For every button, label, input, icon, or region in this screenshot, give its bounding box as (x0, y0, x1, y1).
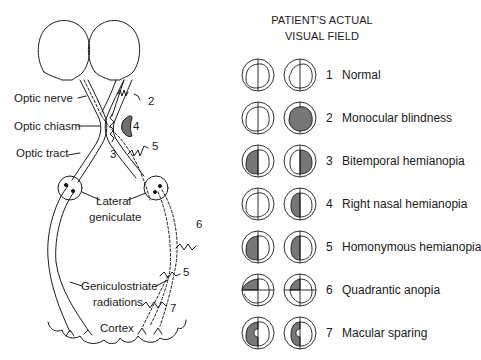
lesion-number-6: 6 (196, 218, 202, 230)
right-lateral-geniculate (144, 176, 168, 200)
field-left-eye-row3 (242, 145, 274, 177)
label-optic-nerve: Optic nerve (14, 92, 73, 104)
lesion-number-3: 3 (110, 148, 116, 160)
field-right-eye-row7 (284, 317, 316, 349)
row-label: Normal (342, 68, 381, 82)
field-right-eye-row1 (284, 59, 316, 91)
row-number: 2 (326, 111, 342, 125)
row-label: Quadrantic anopia (342, 283, 440, 297)
row-label: Right nasal hemianopia (342, 197, 467, 211)
label-radiations: radiations (93, 296, 143, 308)
label-geniculate: geniculate (89, 211, 141, 223)
heading-line-1: PATIENT'S ACTUAL (257, 12, 387, 28)
lesion-number-5b: 5 (183, 266, 189, 278)
field-right-eye-row5 (284, 231, 316, 263)
lesion-4-shaded (122, 116, 132, 137)
lesion-5b (160, 272, 180, 278)
lesion-number-7: 7 (170, 302, 176, 314)
label-optic-tract: Optic tract (16, 147, 69, 159)
field-right-eye-row6 (284, 274, 316, 306)
lesion-5a (128, 146, 148, 156)
row-label: Homonymous hemianopia (342, 240, 481, 254)
field-right-eye-row2 (284, 102, 316, 134)
label-geniculostriate: Geniculostriate (81, 280, 158, 292)
field-left-eye-row5 (242, 231, 274, 263)
field-row-6: 6Quadrantic anopia (326, 283, 440, 297)
field-row-5: 5Homonymous hemianopia (326, 240, 481, 254)
label-cortex: Cortex (100, 322, 134, 334)
field-row-3: 3Bitemporal hemianopia (326, 154, 465, 168)
row-label: Macular sparing (342, 326, 427, 340)
field-row-1: 1Normal (326, 68, 381, 82)
left-radiations (48, 186, 70, 332)
right-eye (88, 21, 139, 81)
field-left-eye-row7 (242, 317, 274, 349)
row-label: Monocular blindness (342, 111, 452, 125)
lesion-6 (176, 244, 196, 250)
field-right-eye-row3 (284, 145, 316, 177)
lesion-number-5: 5 (152, 140, 158, 152)
row-number: 7 (326, 326, 342, 340)
label-lateral: Lateral (96, 195, 131, 207)
row-number: 1 (326, 68, 342, 82)
row-label: Bitemporal hemianopia (342, 154, 465, 168)
left-eye (38, 21, 89, 81)
field-row-7: 7Macular sparing (326, 326, 427, 340)
field-row-2: 2Monocular blindness (326, 111, 452, 125)
row-number: 5 (326, 240, 342, 254)
left-lateral-geniculate (58, 176, 82, 200)
lesion-number-2: 2 (148, 95, 154, 107)
row-number: 4 (326, 197, 342, 211)
lesion-number-4: 4 (133, 120, 140, 132)
visual-field-heading: PATIENT'S ACTUAL VISUAL FIELD (257, 12, 387, 44)
field-left-eye-row2 (242, 102, 274, 134)
field-right-eye-row4 (284, 188, 316, 220)
field-row-4: 4Right nasal hemianopia (326, 197, 467, 211)
row-number: 3 (326, 154, 342, 168)
heading-line-2: VISUAL FIELD (257, 28, 387, 44)
field-left-eye-row6 (242, 274, 274, 306)
visual-field-grid (242, 59, 316, 349)
field-left-eye-row1 (242, 59, 274, 91)
row-number: 6 (326, 283, 342, 297)
field-left-eye-row4 (242, 188, 274, 220)
label-optic-chiasm: Optic chiasm (14, 120, 80, 132)
